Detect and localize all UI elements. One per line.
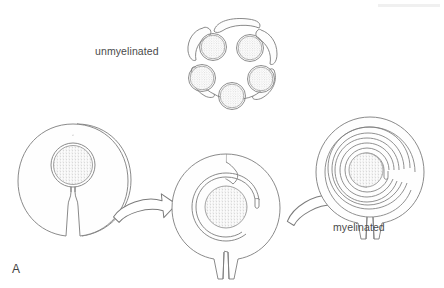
stage-2-axon — [205, 186, 247, 228]
figure-root: unmyelinated myelinated A — [0, 0, 444, 288]
unmyelinated-axon — [237, 35, 264, 62]
unmyelinated-schwann-cell — [188, 19, 277, 110]
label-myelinated: myelinated — [333, 221, 385, 233]
myelination-diagram — [0, 0, 444, 288]
unmyelinated-axon — [248, 66, 275, 93]
panel-label: A — [12, 262, 20, 276]
stage-2-schwann-cell — [172, 154, 280, 279]
stage-1-schwann-cell — [18, 124, 131, 236]
unmyelinated-axon — [200, 34, 227, 61]
stage-3-axon — [349, 153, 383, 187]
label-unmyelinated: unmyelinated — [95, 45, 159, 57]
unmyelinated-axon — [219, 83, 246, 110]
unmyelinated-axon — [189, 65, 216, 92]
stage-1-axon — [54, 146, 93, 185]
